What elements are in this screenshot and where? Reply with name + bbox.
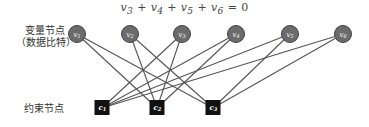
variable-node-v4: v4	[228, 26, 245, 43]
constraint-node-c1: c1	[95, 100, 110, 115]
variable-node-v6: v6	[335, 26, 352, 43]
variable-node-v3: v3	[174, 26, 191, 43]
variable-node-v1: v1	[69, 26, 86, 43]
edges	[77, 34, 343, 108]
edge-v2-c2	[130, 34, 157, 108]
constraint-node-c2: c2	[150, 100, 165, 115]
variable-node-v5: v5	[282, 26, 299, 43]
constraint-node-c3: c3	[206, 100, 221, 115]
tanner-graph: v1v2v3v4v5v6 c1c2c3	[0, 0, 369, 127]
variable-node-v2: v2	[122, 26, 139, 43]
variable-nodes: v1v2v3v4v5v6	[69, 26, 352, 43]
edge-v6-c1	[102, 34, 343, 108]
